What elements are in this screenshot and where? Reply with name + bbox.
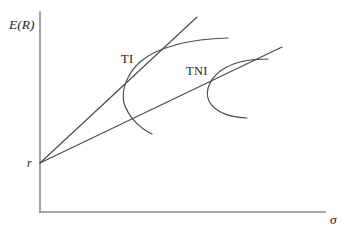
tangency-label-ti: TI — [121, 52, 133, 66]
y-axis-label: E(R) — [8, 17, 35, 32]
frontier-curve-ti — [123, 38, 228, 134]
figure-canvas: E(R) σ r TI TNI — [0, 0, 350, 238]
risk-free-rate-label: r — [27, 156, 32, 170]
frontier-curve-ti-group — [123, 38, 228, 134]
x-axis-label: σ — [330, 212, 338, 227]
efficient-frontier-figure: E(R) σ r TI TNI — [0, 0, 350, 238]
capital-allocation-line-ti — [40, 17, 197, 163]
capital-allocation-line-tni — [40, 47, 282, 163]
axes-group — [40, 12, 325, 212]
tangency-label-tni: TNI — [186, 64, 208, 78]
